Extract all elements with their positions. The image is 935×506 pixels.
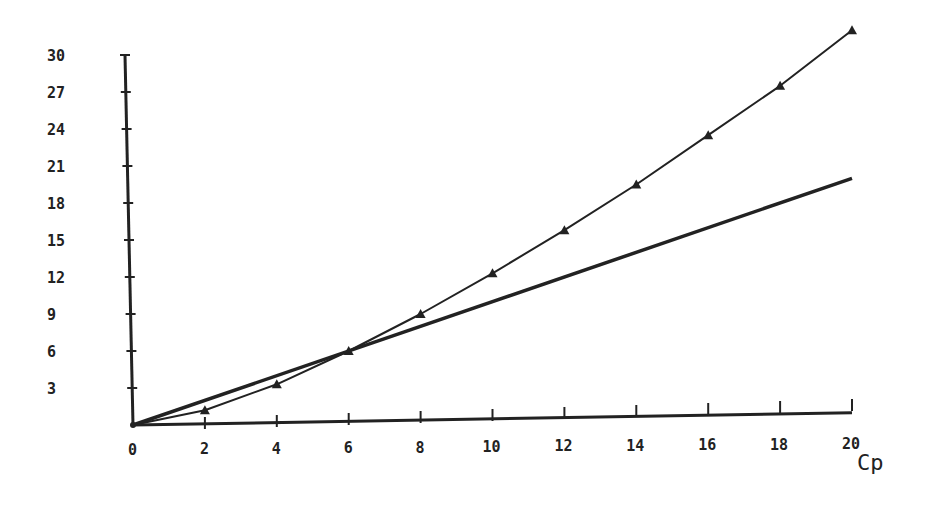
x-tick-label: 10 — [483, 438, 501, 456]
triangle-marker — [488, 268, 498, 277]
triangle-marker — [272, 379, 282, 388]
curve-with-triangle-markers-line — [133, 30, 852, 425]
y-tick-label: 27 — [47, 84, 65, 102]
x-tick-label: 14 — [626, 437, 644, 455]
x-tick-label: 4 — [272, 440, 281, 458]
x-axis: 02468101214161820 — [128, 399, 860, 459]
x-tick-label: 12 — [554, 437, 572, 455]
x-tick-label: 6 — [344, 439, 353, 457]
y-tick-label: 18 — [47, 195, 65, 213]
straight-line-y-equals-x-line — [133, 178, 852, 425]
y-tick-label: 9 — [47, 306, 56, 324]
y-axis: 36912151821242730 — [47, 47, 137, 425]
x-tick-label: 16 — [698, 436, 716, 454]
triangle-marker — [631, 180, 641, 189]
y-tick-label: 30 — [47, 47, 65, 65]
series-layer — [130, 25, 857, 428]
y-tick-label: 21 — [47, 158, 65, 176]
triangle-marker — [847, 25, 857, 34]
triangle-marker — [703, 130, 713, 139]
triangle-marker — [559, 225, 569, 234]
x-axis-title: Cp — [857, 450, 884, 475]
origin-point — [130, 422, 136, 428]
triangle-marker — [416, 309, 426, 318]
x-tick-label: 18 — [770, 436, 788, 454]
line-chart: 36912151821242730 02468101214161820 Cp — [0, 0, 935, 506]
y-tick-label: 12 — [47, 269, 65, 287]
y-tick-label: 6 — [47, 343, 56, 361]
x-tick-label: 0 — [128, 441, 137, 459]
y-tick-label: 3 — [47, 380, 56, 398]
y-tick-label: 15 — [47, 232, 65, 250]
x-tick-label: 2 — [200, 440, 209, 458]
x-tick-label: 8 — [416, 439, 425, 457]
y-tick-label: 24 — [47, 121, 65, 139]
